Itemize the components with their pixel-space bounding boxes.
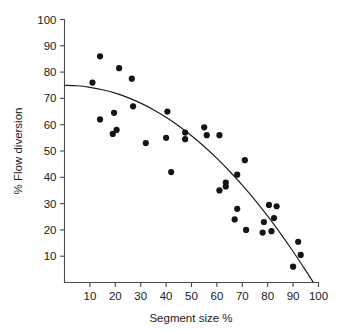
x-tick-label-70: 70	[236, 290, 249, 302]
data-point	[243, 227, 249, 233]
data-point	[164, 108, 170, 114]
data-point	[261, 219, 267, 225]
data-point	[242, 157, 248, 163]
x-tick-label-100: 100	[309, 290, 328, 302]
data-point	[201, 124, 207, 130]
data-point	[295, 239, 301, 245]
data-point	[234, 172, 240, 178]
data-point	[116, 65, 122, 71]
data-point	[234, 206, 240, 212]
x-tick-label-90: 90	[287, 290, 300, 302]
x-tick-label-50: 50	[185, 290, 198, 302]
y-axis-title: % Flow diversion	[12, 108, 24, 195]
y-tick-label-10: 10	[44, 250, 57, 262]
data-point	[143, 140, 149, 146]
data-point	[163, 135, 169, 141]
fit-trend-curve	[65, 85, 314, 282]
chart-svg: 102030405060708090100 102030405060708090…	[0, 0, 350, 334]
data-point	[273, 203, 279, 209]
y-axis-tick-labels: 102030405060708090100	[37, 14, 56, 263]
y-tick-label-90: 90	[44, 40, 57, 52]
data-point	[113, 127, 119, 133]
data-point	[168, 169, 174, 175]
x-tick-label-10: 10	[84, 290, 97, 302]
x-axis-ticks	[90, 283, 319, 288]
plot-axes	[65, 20, 319, 283]
data-point	[216, 187, 222, 193]
x-tick-label-60: 60	[211, 290, 224, 302]
x-tick-label-40: 40	[160, 290, 173, 302]
data-point	[182, 129, 188, 135]
y-tick-label-30: 30	[44, 198, 57, 210]
data-point	[182, 136, 188, 142]
data-point	[130, 103, 136, 109]
y-tick-label-40: 40	[44, 171, 57, 183]
data-point	[290, 264, 296, 270]
data-point	[97, 116, 103, 122]
y-tick-label-60: 60	[44, 119, 57, 131]
x-tick-label-20: 20	[109, 290, 122, 302]
data-point	[204, 132, 210, 138]
data-point	[216, 132, 222, 138]
y-tick-label-50: 50	[44, 145, 57, 157]
data-point	[232, 216, 238, 222]
data-point	[97, 53, 103, 59]
data-point	[298, 252, 304, 258]
data-points-layer	[89, 53, 303, 270]
data-point	[268, 228, 274, 234]
y-tick-label-20: 20	[44, 224, 57, 236]
data-point	[129, 76, 135, 82]
data-point	[223, 183, 229, 189]
x-axis-title: Segment size %	[149, 312, 232, 324]
data-point	[89, 80, 95, 86]
data-point	[260, 229, 266, 235]
scatter-chart: 102030405060708090100 102030405060708090…	[0, 0, 350, 334]
y-tick-label-70: 70	[44, 92, 57, 104]
y-tick-label-100: 100	[37, 14, 56, 26]
x-tick-label-80: 80	[261, 290, 274, 302]
y-tick-label-80: 80	[44, 66, 57, 78]
data-point	[271, 215, 277, 221]
y-axis-ticks	[60, 20, 65, 257]
x-tick-label-30: 30	[134, 290, 147, 302]
data-point	[266, 202, 272, 208]
x-axis-tick-labels: 102030405060708090100	[84, 290, 329, 302]
data-point	[111, 110, 117, 116]
